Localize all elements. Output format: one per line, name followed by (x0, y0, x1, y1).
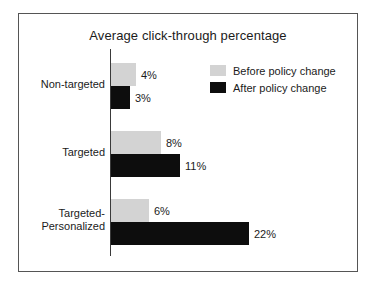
category-label-line: Targeted- (19, 207, 105, 220)
bar-after-non-targeted (111, 86, 130, 109)
plot-area: Non-targeted 4% 3% Targeted 8% 11% (19, 14, 357, 271)
chart-legend: Before policy change After policy change (210, 62, 336, 96)
category-label-targeted: Targeted (19, 146, 105, 159)
bar-before-non-targeted (111, 63, 136, 86)
legend-entry-before: Before policy change (210, 62, 336, 79)
category-label-targeted-personalized: Targeted- Personalized (19, 207, 105, 233)
bar-value-before-non-targeted: 4% (136, 69, 157, 81)
legend-swatch-before-icon (210, 65, 226, 76)
category-label-line: Targeted (19, 146, 105, 159)
bar-value-before-targeted-personalized: 6% (149, 205, 170, 217)
legend-label-before: Before policy change (233, 65, 336, 77)
category-label-non-targeted: Non-targeted (19, 78, 105, 91)
bar-value-after-targeted: 11% (180, 160, 206, 172)
bar-after-targeted-personalized (111, 222, 249, 245)
legend-swatch-after-icon (210, 82, 226, 93)
bar-value-after-targeted-personalized: 22% (249, 228, 276, 240)
bar-value-after-non-targeted: 3% (130, 92, 151, 104)
chart-figure-frame: Average click-through percentage Non-tar… (18, 13, 358, 272)
bar-value-before-targeted: 8% (161, 137, 182, 149)
legend-entry-after: After policy change (210, 79, 336, 96)
category-label-line: Personalized (19, 220, 105, 233)
bar-after-targeted (111, 154, 180, 177)
legend-label-after: After policy change (233, 82, 327, 94)
bar-before-targeted (111, 131, 161, 154)
bar-before-targeted-personalized (111, 199, 149, 222)
category-label-line: Non-targeted (19, 78, 105, 91)
